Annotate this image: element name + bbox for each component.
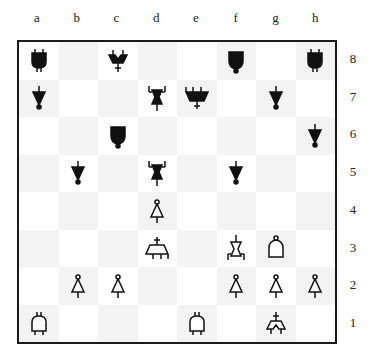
square-h4	[296, 192, 336, 230]
white-queen-icon	[143, 234, 171, 262]
white-pawn-icon	[222, 272, 250, 300]
black-bishop-icon	[104, 122, 132, 150]
square-c2	[98, 267, 138, 305]
square-f2	[217, 267, 257, 305]
square-b4	[59, 192, 99, 230]
square-b5	[59, 155, 99, 193]
square-c8	[98, 42, 138, 80]
square-b8	[59, 42, 99, 80]
square-e3	[177, 230, 217, 268]
file-label: g	[256, 10, 296, 30]
square-g8	[256, 42, 296, 80]
file-label: h	[295, 10, 335, 30]
black-pawn-icon	[64, 159, 92, 187]
square-c6	[98, 117, 138, 155]
square-c1	[98, 305, 138, 343]
square-a3	[19, 230, 59, 268]
white-pawn-icon	[301, 272, 329, 300]
file-label: f	[216, 10, 256, 30]
square-e6	[177, 117, 217, 155]
square-e1	[177, 305, 217, 343]
rank-label: 2	[343, 267, 363, 305]
rank-label: 4	[343, 191, 363, 229]
black-pawn-icon	[301, 122, 329, 150]
file-label: c	[97, 10, 137, 30]
square-b2	[59, 267, 99, 305]
square-h1	[296, 305, 336, 343]
square-f6	[217, 117, 257, 155]
white-king-icon	[262, 309, 290, 337]
square-c3	[98, 230, 138, 268]
white-pawn-icon	[104, 272, 132, 300]
square-c5	[98, 155, 138, 193]
square-g4	[256, 192, 296, 230]
square-g7	[256, 80, 296, 118]
white-rook-icon	[25, 309, 53, 337]
square-h6	[296, 117, 336, 155]
square-b1	[59, 305, 99, 343]
square-e7	[177, 80, 217, 118]
square-g6	[256, 117, 296, 155]
square-g2	[256, 267, 296, 305]
square-e2	[177, 267, 217, 305]
square-a4	[19, 192, 59, 230]
square-g1	[256, 305, 296, 343]
rank-label: 6	[343, 116, 363, 154]
square-a7	[19, 80, 59, 118]
black-king-icon	[104, 47, 132, 75]
square-c4	[98, 192, 138, 230]
white-rook-icon	[183, 309, 211, 337]
square-c7	[98, 80, 138, 118]
square-a5	[19, 155, 59, 193]
square-g5	[256, 155, 296, 193]
square-f3	[217, 230, 257, 268]
square-d8	[138, 42, 178, 80]
square-a2	[19, 267, 59, 305]
black-rook-icon	[25, 47, 53, 75]
square-f4	[217, 192, 257, 230]
black-pawn-icon	[262, 84, 290, 112]
white-pawn-icon	[143, 197, 171, 225]
square-d1	[138, 305, 178, 343]
square-a8	[19, 42, 59, 80]
square-a1	[19, 305, 59, 343]
rank-labels: 8 7 6 5 4 3 2 1	[343, 40, 363, 342]
square-h3	[296, 230, 336, 268]
square-d5	[138, 155, 178, 193]
black-queen-icon	[183, 84, 211, 112]
square-f8	[217, 42, 257, 80]
file-label: b	[57, 10, 97, 30]
square-g3	[256, 230, 296, 268]
square-h8	[296, 42, 336, 80]
square-d6	[138, 117, 178, 155]
black-knight-icon	[143, 159, 171, 187]
square-e8	[177, 42, 217, 80]
black-pawn-icon	[222, 159, 250, 187]
black-pawn-icon	[25, 84, 53, 112]
square-d3	[138, 230, 178, 268]
square-f7	[217, 80, 257, 118]
file-label: a	[17, 10, 57, 30]
square-b6	[59, 117, 99, 155]
square-e5	[177, 155, 217, 193]
file-labels: a b c d e f g h	[17, 10, 335, 30]
square-h7	[296, 80, 336, 118]
white-knight-icon	[222, 234, 250, 262]
white-bishop-icon	[262, 234, 290, 262]
black-bishop-icon	[222, 47, 250, 75]
file-label: d	[136, 10, 176, 30]
square-f5	[217, 155, 257, 193]
square-a6	[19, 117, 59, 155]
square-d2	[138, 267, 178, 305]
rank-label: 5	[343, 153, 363, 191]
rank-label: 7	[343, 78, 363, 116]
square-d4	[138, 192, 178, 230]
rank-label: 1	[343, 304, 363, 342]
black-rook-icon	[301, 47, 329, 75]
rank-label: 3	[343, 229, 363, 267]
black-knight-icon	[143, 84, 171, 112]
white-pawn-icon	[262, 272, 290, 300]
file-label: e	[176, 10, 216, 30]
chess-board	[17, 40, 337, 344]
square-d7	[138, 80, 178, 118]
